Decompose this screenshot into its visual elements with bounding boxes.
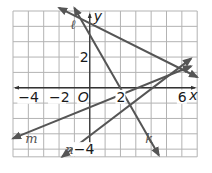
line-label-n: n (65, 142, 73, 157)
y-axis-label: y (93, 8, 103, 24)
x-tick-label: −4 (18, 89, 39, 105)
line-label-k: k (145, 131, 153, 146)
origin-label: O (78, 89, 89, 105)
x-tick-label: 2 (116, 89, 125, 105)
line-label-l: ℓ (70, 17, 76, 32)
graph-canvas: −4−226Oxy2−4ℓkmn (0, 0, 212, 173)
x-tick-label: 6 (178, 89, 187, 105)
y-tick-label: 2 (80, 49, 89, 65)
x-tick-label: −2 (49, 89, 70, 105)
line-label-m: m (25, 131, 37, 146)
x-axis-label: x (188, 87, 198, 103)
y-tick-label: −4 (74, 141, 95, 157)
coordinate-graph: −4−226Oxy2−4ℓkmn (0, 0, 212, 173)
